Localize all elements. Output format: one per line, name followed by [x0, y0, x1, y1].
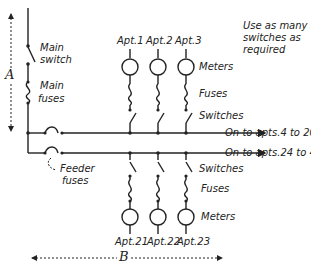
main-switch-blade	[28, 47, 35, 62]
upper-switches-label: Switches	[199, 110, 243, 121]
apt-2-label: Apt.2	[146, 35, 173, 46]
note-line-1: Use as many	[243, 20, 308, 31]
apt-22-label: Apt.22	[147, 236, 180, 247]
upper-bus-label: On to apts.4 to 20	[225, 127, 311, 138]
dimension-a-label: A	[5, 69, 14, 80]
note-line-2: switches as	[243, 32, 301, 43]
apartment-wiring-diagram: Use as many switches as required Main sw…	[0, 0, 311, 271]
feeder-fuses-label-2: fuses	[62, 175, 88, 186]
main-fuse	[26, 82, 29, 103]
apt-1-label: Apt.1	[117, 35, 144, 46]
lower-switches-label: Switches	[199, 163, 243, 174]
main-fuses-label-1: Main	[40, 80, 64, 91]
lower-fuses-label: Fuses	[201, 183, 229, 194]
main-fuses-label-2: fuses	[38, 93, 64, 104]
upper-branch-3	[178, 49, 194, 133]
upper-branch-1	[122, 49, 138, 133]
lower-branch-2	[150, 153, 166, 234]
lower-bus-label: On to apts.24 to 40	[225, 147, 311, 158]
main-switch-label-2: switch	[40, 54, 72, 65]
apt-23-label: Apt.23	[177, 236, 210, 247]
apt-21-label: Apt.21	[115, 236, 148, 247]
lower-branch-3	[178, 153, 194, 234]
main-switch-label-1: Main	[40, 42, 64, 53]
apt-3-label: Apt.3	[175, 35, 202, 46]
lower-branch-1	[122, 153, 138, 234]
note-line-3: required	[243, 44, 285, 55]
lower-meters-label: Meters	[201, 211, 235, 222]
feeder-fuses-label-1: Feeder	[60, 163, 95, 174]
dimension-b-label: B	[119, 251, 129, 262]
upper-fuses-label: Fuses	[199, 88, 227, 99]
upper-branch-2	[150, 49, 166, 133]
upper-meters-label: Meters	[199, 61, 233, 72]
